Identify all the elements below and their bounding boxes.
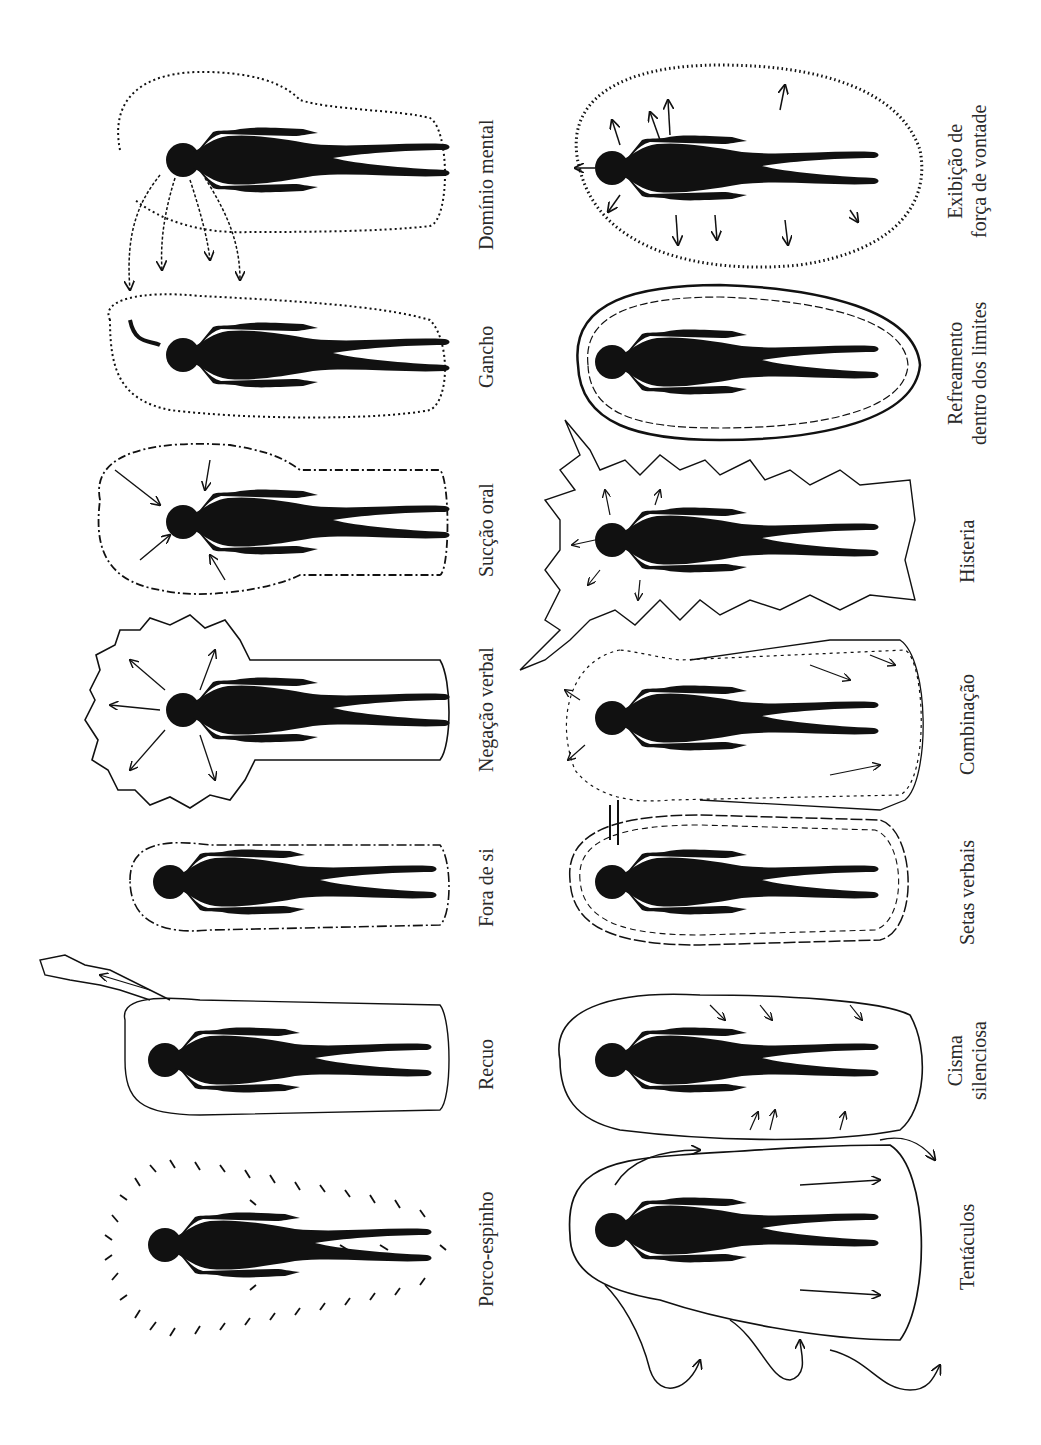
figure-exibicao-forca-vontade xyxy=(575,65,922,267)
label-succao-oral: Sucção oral xyxy=(474,483,498,577)
label-exibicao-forca-vontade: Exibição de força de vontade xyxy=(943,105,991,238)
label-dominio-mental: Domínio mental xyxy=(474,119,498,250)
figure-negacao-verbal xyxy=(85,615,450,808)
figure-setas-verbais xyxy=(570,800,908,945)
label-tentaculos: Tentáculos xyxy=(955,1204,979,1290)
label-combinacao: Combinação xyxy=(955,674,979,775)
label-fora-de-si: Fora de si xyxy=(474,848,498,927)
figure-gancho xyxy=(108,294,449,417)
label-setas-verbais: Setas verbais xyxy=(955,840,979,945)
figure-succao-oral xyxy=(99,444,450,594)
figure-cisma-silenciosa xyxy=(559,994,935,1160)
illustration-canvas xyxy=(0,0,1041,1445)
label-porco-espinho: Porco-espinho xyxy=(474,1191,498,1307)
figure-porco-espinho xyxy=(105,1160,446,1336)
label-recuo: Recuo xyxy=(474,1039,498,1090)
figure-histeria xyxy=(520,420,915,670)
figure-fora-de-si xyxy=(130,843,449,931)
figure-recuo xyxy=(40,955,449,1115)
label-gancho: Gancho xyxy=(474,326,498,388)
figure-combinacao xyxy=(565,640,923,810)
label-negacao-verbal: Negação verbal xyxy=(474,647,498,772)
label-histeria: Histeria xyxy=(955,520,979,583)
figure-tentaculos xyxy=(570,1145,940,1390)
figure-dominio-mental xyxy=(118,72,449,290)
figure-refreamento xyxy=(577,285,920,440)
label-cisma-silenciosa: Cisma silenciosa xyxy=(943,1021,991,1100)
label-refreamento: Refreamento dentro dos limites xyxy=(943,302,991,445)
